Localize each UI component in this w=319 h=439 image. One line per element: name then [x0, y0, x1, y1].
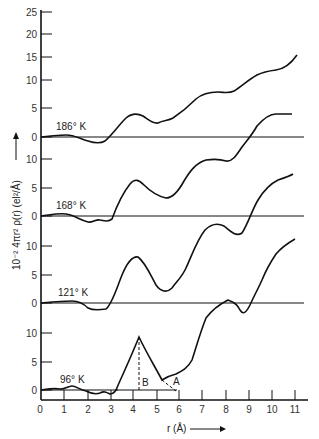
y-tick-label: 5 [31, 103, 37, 114]
y-tick-label: 10 [26, 241, 38, 252]
y-tick-label: 10 [26, 154, 38, 165]
x-tick-label: 8 [223, 404, 229, 415]
y-arrow-icon [13, 132, 19, 139]
rdf-chart: 2520151050105010501050 01234567891011 18… [0, 0, 319, 439]
label-peak-a: A [173, 376, 180, 387]
y-tick-label: 5 [31, 183, 37, 194]
y-tick-label: 5 [31, 270, 37, 281]
y-tick-label: 10 [26, 75, 38, 86]
x-tick-label: 6 [176, 404, 182, 415]
x-axis-title: r (Å) [167, 422, 186, 434]
y-axis-title: 10⁻² 4πr² ρ(r) (el²/Å) [10, 180, 22, 270]
x-tick-label: 0 [37, 404, 43, 415]
y-tick-label: 25 [26, 7, 38, 18]
x-tick-label: 7 [199, 404, 205, 415]
x-tick-label: 10 [266, 404, 278, 415]
label-168k: 168° K [56, 200, 86, 211]
label-96k: 96° K [60, 374, 85, 385]
x-tick-label: 4 [130, 404, 136, 415]
y-tick-label: 20 [26, 29, 38, 40]
y-tick-label: 10 [26, 328, 38, 339]
x-arrow-icon [220, 426, 226, 432]
y-tick-label: 0 [31, 211, 37, 222]
x-tick-label: 3 [108, 404, 114, 415]
label-peak-b: B [142, 377, 149, 388]
x-ticks: 01234567891011 [37, 390, 300, 415]
y-ticks: 2520151050105010501050 [26, 7, 52, 396]
label-121k: 121° K [58, 287, 88, 298]
x-tick-label: 11 [290, 404, 301, 415]
y-tick-label: 0 [31, 132, 37, 143]
x-tick-label: 1 [61, 404, 67, 415]
y-tick-label: 0 [31, 298, 37, 309]
y-tick-label: 5 [31, 357, 37, 368]
y-tick-label: 0 [31, 385, 37, 396]
y-tick-label: 15 [26, 52, 38, 63]
label-186k: 186° K [56, 121, 86, 132]
x-tick-label: 2 [85, 404, 91, 415]
x-tick-label: 5 [154, 404, 160, 415]
x-tick-label: 9 [246, 404, 252, 415]
curve-96k [41, 239, 295, 394]
